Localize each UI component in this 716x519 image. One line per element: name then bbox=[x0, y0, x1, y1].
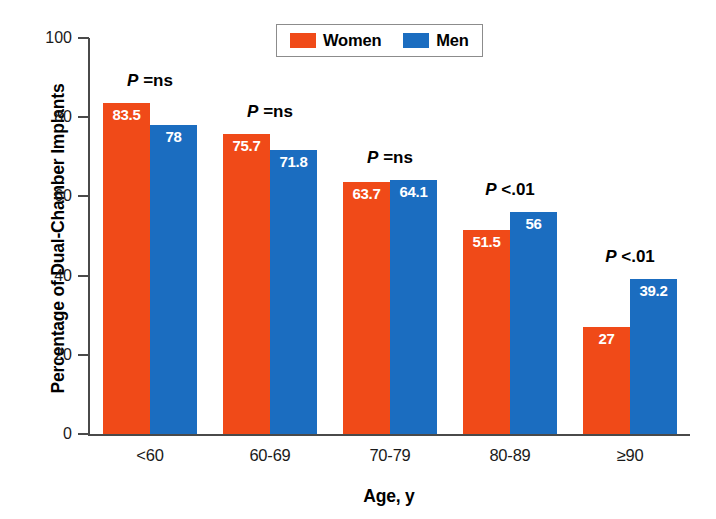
bar-value-label: 56 bbox=[510, 215, 557, 232]
p-value-annotation: P <.01 bbox=[463, 180, 557, 200]
y-axis-tick bbox=[78, 116, 89, 118]
bar-group: 63.764.1 bbox=[343, 38, 437, 434]
p-value-annotation: P =ns bbox=[343, 148, 437, 168]
x-axis-tick-label: 60-69 bbox=[210, 446, 330, 465]
bar-group: 75.771.8 bbox=[223, 38, 317, 434]
bar-men[interactable]: 64.1 bbox=[390, 180, 437, 434]
plot-area: 83.578P =ns75.771.8P =ns63.764.1P =ns51.… bbox=[90, 38, 690, 434]
y-axis-tick bbox=[78, 37, 89, 39]
bar-value-label: 39.2 bbox=[630, 282, 677, 299]
bar-group: 51.556 bbox=[463, 38, 557, 434]
legend-label: Women bbox=[323, 31, 381, 50]
p-value-annotation: P =ns bbox=[223, 102, 317, 122]
p-symbol: P bbox=[605, 247, 616, 266]
legend-item-men[interactable]: Men bbox=[403, 31, 468, 50]
y-axis-title: Percentage of Dual-Chamber Implants bbox=[48, 29, 69, 449]
bar-group: 83.578 bbox=[103, 38, 197, 434]
p-symbol: P bbox=[367, 148, 378, 167]
x-axis-line bbox=[88, 434, 690, 436]
y-axis-tick-label: 100 bbox=[32, 29, 72, 47]
bar-value-label: 83.5 bbox=[103, 106, 150, 123]
y-axis-tick bbox=[78, 354, 89, 356]
x-axis-tick-label: <60 bbox=[90, 446, 210, 465]
x-axis-tick-label: 80-89 bbox=[450, 446, 570, 465]
p-value-text: <.01 bbox=[617, 247, 655, 266]
legend-label: Men bbox=[436, 31, 468, 50]
bar-value-label: 71.8 bbox=[270, 153, 317, 170]
y-axis-tick-label: 60 bbox=[32, 187, 72, 205]
x-axis-tick-label: 70-79 bbox=[330, 446, 450, 465]
bar-women[interactable]: 83.5 bbox=[103, 103, 150, 434]
chart-legend: WomenMen bbox=[276, 24, 483, 57]
bar-men[interactable]: 71.8 bbox=[270, 150, 317, 434]
p-symbol: P bbox=[127, 71, 138, 90]
bar-value-label: 27 bbox=[583, 330, 630, 347]
y-axis-tick-label: 80 bbox=[32, 108, 72, 126]
bar-women[interactable]: 27 bbox=[583, 327, 630, 434]
y-axis-tick-label: 0 bbox=[32, 425, 72, 443]
bar-men[interactable]: 56 bbox=[510, 212, 557, 434]
p-value-text: =ns bbox=[378, 148, 413, 167]
bar-value-label: 51.5 bbox=[463, 233, 510, 250]
x-axis-title: Age, y bbox=[89, 486, 689, 507]
y-axis-tick bbox=[78, 275, 89, 277]
bar-women[interactable]: 75.7 bbox=[223, 134, 270, 434]
p-value-text: <.01 bbox=[497, 180, 535, 199]
bar-women[interactable]: 63.7 bbox=[343, 182, 390, 434]
y-axis-tick bbox=[78, 195, 89, 197]
p-symbol: P bbox=[247, 102, 258, 121]
x-axis-tick-label: ≥90 bbox=[570, 446, 690, 465]
p-value-annotation: P <.01 bbox=[583, 247, 677, 267]
bar-value-label: 75.7 bbox=[223, 137, 270, 154]
p-value-annotation: P =ns bbox=[103, 71, 197, 91]
legend-item-women[interactable]: Women bbox=[290, 31, 381, 50]
bar-value-label: 63.7 bbox=[343, 185, 390, 202]
p-value-text: =ns bbox=[258, 102, 293, 121]
bar-chart-figure: Percentage of Dual-Chamber Implants 0204… bbox=[0, 0, 716, 519]
bar-value-label: 64.1 bbox=[390, 183, 437, 200]
bar-men[interactable]: 39.2 bbox=[630, 279, 677, 434]
p-value-text: =ns bbox=[138, 71, 173, 90]
bar-women[interactable]: 51.5 bbox=[463, 230, 510, 434]
y-axis-tick-label: 20 bbox=[32, 346, 72, 364]
bar-men[interactable]: 78 bbox=[150, 125, 197, 434]
legend-color-swatch bbox=[403, 33, 429, 48]
bar-value-label: 78 bbox=[150, 128, 197, 145]
legend-color-swatch bbox=[290, 33, 316, 48]
bar-group: 2739.2 bbox=[583, 38, 677, 434]
y-axis-tick-label: 40 bbox=[32, 267, 72, 285]
p-symbol: P bbox=[485, 180, 496, 199]
